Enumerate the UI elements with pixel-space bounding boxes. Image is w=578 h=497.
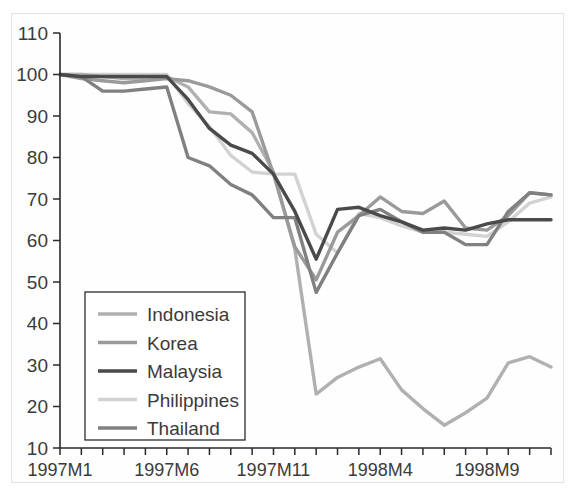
chart-legend: IndonesiaKoreaMalaysiaPhilippinesThailan… bbox=[85, 292, 245, 440]
y-axis-tick-label: 40 bbox=[27, 313, 48, 334]
x-axis-tick-label: 1997M11 bbox=[237, 460, 311, 480]
y-axis-tick-label: 50 bbox=[27, 272, 48, 293]
y-axis-tick-label: 10 bbox=[27, 438, 48, 459]
y-axis-tick-label: 110 bbox=[18, 23, 48, 44]
chart-figure: 110100908070605040302010 1997M11997M6199… bbox=[0, 0, 578, 497]
y-axis-tick-label: 60 bbox=[27, 230, 48, 251]
x-axis-tick-label: 1998M9 bbox=[454, 460, 519, 480]
x-axis-tick-labels: 1997M11997M61997M111998M41998M9 bbox=[27, 460, 519, 480]
y-axis-tick-label: 70 bbox=[27, 189, 48, 210]
y-axis-tick-labels: 110100908070605040302010 bbox=[16, 23, 48, 459]
series-line-malaysia bbox=[60, 75, 551, 260]
legend-label-indonesia: Indonesia bbox=[147, 304, 230, 325]
series-line-thailand bbox=[60, 75, 551, 293]
x-axis-tick-label: 1998M4 bbox=[348, 460, 413, 480]
x-axis-tick-label: 1997M6 bbox=[134, 460, 199, 480]
y-axis-tick-label: 100 bbox=[16, 64, 48, 85]
legend-label-korea: Korea bbox=[147, 333, 198, 354]
line-chart: 110100908070605040302010 1997M11997M6199… bbox=[0, 0, 578, 497]
x-axis-tick-marks bbox=[60, 448, 551, 455]
x-axis-tick-label: 1997M1 bbox=[27, 460, 92, 480]
legend-label-philippines: Philippines bbox=[147, 390, 239, 411]
legend-label-malaysia: Malaysia bbox=[147, 361, 222, 382]
y-axis-tick-label: 20 bbox=[27, 396, 48, 417]
y-axis-tick-label: 90 bbox=[27, 106, 48, 127]
y-axis-tick-label: 30 bbox=[27, 355, 48, 376]
legend-label-thailand: Thailand bbox=[147, 418, 220, 439]
y-axis-tick-marks bbox=[53, 33, 60, 448]
y-axis-tick-label: 80 bbox=[27, 147, 48, 168]
